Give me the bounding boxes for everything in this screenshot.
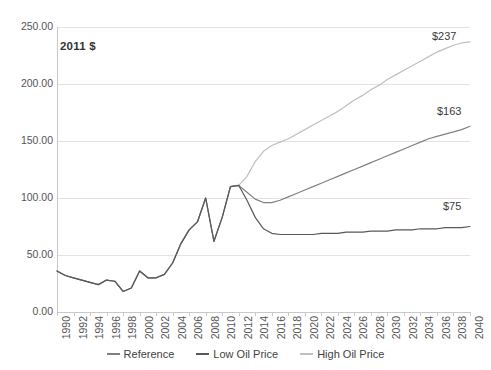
legend-swatch-icon <box>300 353 313 355</box>
legend-item-reference[interactable]: Reference <box>107 348 175 360</box>
series-line-high-oil-price <box>57 42 470 292</box>
legend-item-low-oil-price[interactable]: Low Oil Price <box>196 348 278 360</box>
series-line-low-oil-price <box>57 185 470 291</box>
series-layer <box>0 0 491 370</box>
legend-label: Reference <box>124 348 175 360</box>
chart-legend: ReferenceLow Oil PriceHigh Oil Price <box>0 348 491 360</box>
units-annotation: 2011 $ <box>60 40 96 52</box>
legend-swatch-icon <box>107 353 120 355</box>
reference-end-label: $163 <box>437 105 461 117</box>
low-oil-price-end-label: $75 <box>443 200 461 212</box>
legend-label: Low Oil Price <box>213 348 278 360</box>
legend-swatch-icon <box>196 353 209 355</box>
legend-item-high-oil-price[interactable]: High Oil Price <box>300 348 384 360</box>
high-oil-price-end-label: $237 <box>432 30 456 42</box>
legend-label: High Oil Price <box>317 348 384 360</box>
oil-price-line-chart: 0.0050.00100.00150.00200.00250.00 199019… <box>0 0 491 370</box>
